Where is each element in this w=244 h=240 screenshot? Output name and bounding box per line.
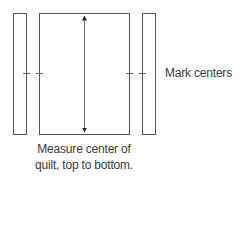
caption-line-2: quilt, top to bottom. — [24, 157, 144, 173]
caption-line-1: Measure center of — [24, 141, 144, 157]
mark-centers-label: Mark centers — [165, 66, 232, 80]
measure-caption: Measure center of quilt, top to bottom. — [24, 141, 144, 173]
